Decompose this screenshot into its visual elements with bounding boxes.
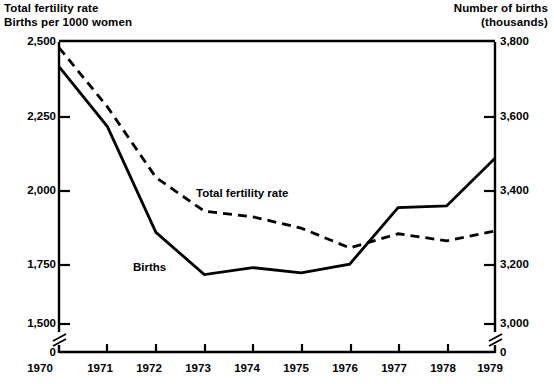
plot-area <box>0 0 554 384</box>
series-line-total-fertility-rate <box>59 48 495 248</box>
left-axis-ticks <box>59 117 70 324</box>
series-line-births <box>59 67 495 275</box>
axis-break-marks <box>53 334 502 346</box>
right-axis-ticks <box>484 117 495 324</box>
axis-frame <box>59 41 495 353</box>
fertility-births-chart: Total fertility rate Births per 1000 wom… <box>0 0 554 384</box>
